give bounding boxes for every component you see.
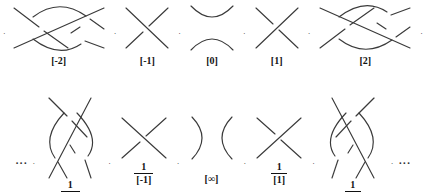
tangle-label-recip-two: 1 [2] bbox=[345, 180, 361, 193]
tangle-label-recip-minus-2: 1 [-2] bbox=[61, 180, 80, 193]
tangle-diagram-recip-minus-1 bbox=[118, 114, 170, 162]
fraction-numerator: 1 bbox=[66, 180, 75, 191]
separator-dot: · bbox=[308, 30, 311, 38]
tangle-figure: ··· · [-2] · bbox=[0, 0, 426, 193]
fraction-recip-minus-2: 1 [-2] bbox=[61, 180, 80, 193]
tangle-diagram-one bbox=[252, 2, 302, 54]
tangle-diagram-two bbox=[316, 2, 414, 54]
tangle-diagram-minus-1 bbox=[122, 2, 172, 54]
separator-dot: · bbox=[312, 160, 315, 168]
fraction-numerator: 1 bbox=[139, 162, 148, 173]
fraction-denominator: [-1] bbox=[134, 174, 153, 185]
separator-dot: · bbox=[108, 160, 111, 168]
tangle-diagram-minus-2 bbox=[10, 2, 108, 54]
tangle-cell-minus-1[interactable]: [-1] bbox=[122, 2, 172, 66]
separator-dot: · bbox=[391, 160, 394, 168]
fraction-denominator: [-2] bbox=[61, 192, 80, 193]
tangle-cell-zero[interactable]: [0] bbox=[187, 2, 237, 66]
fraction-denominator: [1] bbox=[271, 174, 287, 185]
tangle-label-minus-2: [-2] bbox=[51, 56, 66, 66]
fraction-denominator: [2] bbox=[345, 192, 361, 193]
reciprocal-tangle-row: ··· · 1 [-2] bbox=[0, 96, 426, 193]
tangle-cell-recip-minus-2[interactable]: 1 [-2] bbox=[39, 96, 101, 193]
leading-ellipsis: ··· bbox=[15, 158, 27, 169]
tangle-diagram-recip-minus-2 bbox=[39, 96, 101, 180]
separator-dot: · bbox=[177, 160, 180, 168]
separator-dot: · bbox=[3, 30, 6, 38]
trailing-ellipsis: ··· bbox=[399, 158, 411, 169]
tangle-label-infinity: [∞] bbox=[205, 174, 219, 184]
tangle-diagram-infinity bbox=[186, 114, 238, 162]
tangle-label-two: [2] bbox=[360, 56, 372, 66]
fraction-numerator: 1 bbox=[348, 180, 357, 191]
separator-dot: · bbox=[244, 160, 247, 168]
separator-dot: · bbox=[243, 30, 246, 38]
tangle-cell-infinity[interactable]: [∞] bbox=[186, 96, 238, 184]
tangle-label-recip-minus-1: 1 [-1] bbox=[134, 162, 153, 185]
fraction-numerator: 1 bbox=[275, 162, 284, 173]
tangle-cell-recip-two[interactable]: 1 [2] bbox=[322, 96, 384, 193]
fraction-recip-one: 1 [1] bbox=[271, 162, 287, 185]
tangle-label-minus-1: [-1] bbox=[140, 56, 155, 66]
tangle-cell-recip-one[interactable]: 1 [1] bbox=[253, 96, 305, 185]
tangle-label-one: [1] bbox=[271, 56, 283, 66]
tangle-diagram-recip-one bbox=[253, 114, 305, 162]
fraction-recip-minus-1: 1 [-1] bbox=[134, 162, 153, 185]
separator-dot: · bbox=[32, 160, 35, 168]
separator-dot: · bbox=[178, 30, 181, 38]
tangle-cell-one[interactable]: [1] bbox=[252, 2, 302, 66]
separator-dot: · bbox=[420, 30, 423, 38]
tangle-cell-minus-2[interactable]: [-2] bbox=[10, 2, 108, 66]
tangle-label-recip-one: 1 [1] bbox=[271, 162, 287, 185]
tangle-cell-two[interactable]: [2] bbox=[316, 2, 414, 66]
tangle-cell-recip-minus-1[interactable]: 1 [-1] bbox=[118, 96, 170, 185]
integer-tangle-row: ··· · [-2] · bbox=[0, 2, 426, 94]
fraction-recip-two: 1 [2] bbox=[345, 180, 361, 193]
tangle-diagram-zero bbox=[187, 2, 237, 54]
tangle-diagram-recip-two bbox=[322, 96, 384, 180]
separator-dot: · bbox=[114, 30, 117, 38]
tangle-label-zero: [0] bbox=[206, 56, 218, 66]
